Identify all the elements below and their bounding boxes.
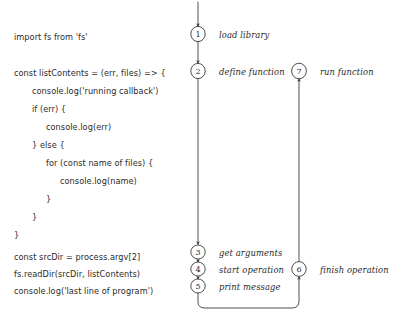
code-line: for (const name of files) { xyxy=(46,158,153,168)
code-line: } else { xyxy=(32,140,65,150)
step-marker-3-number: 3 xyxy=(195,248,200,257)
step-marker-6-number: 6 xyxy=(296,265,301,274)
step-label-print-message: print message xyxy=(219,282,281,292)
flow-connectors xyxy=(198,2,299,308)
step-marker-2[interactable]: 2 xyxy=(191,63,205,78)
code-line: console.log(name) xyxy=(60,176,137,186)
step-marker-1-number: 1 xyxy=(195,30,200,39)
step-marker-6[interactable]: 6 xyxy=(292,262,306,277)
step-marker-5-number: 5 xyxy=(195,282,200,291)
step-label-load-library: load library xyxy=(219,30,269,40)
step-marker-1[interactable]: 1 xyxy=(191,26,205,41)
flow-diagram-page: 1 2 3 4 5 6 7 xyxy=(0,0,396,328)
code-line: import fs from 'fs' xyxy=(14,32,88,42)
step-label-finish-operation: finish operation xyxy=(320,265,389,275)
code-line: } xyxy=(46,194,51,204)
code-line: const srcDir = process.argv[2] xyxy=(14,252,140,262)
step-marker-2-number: 2 xyxy=(195,67,200,76)
step-label-define-function: define function xyxy=(219,67,285,77)
code-line: console.log('running callback') xyxy=(32,86,159,96)
step-marker-7[interactable]: 7 xyxy=(292,63,307,79)
step-label-get-arguments: get arguments xyxy=(219,248,282,258)
code-line: const listContents = (err, files) => { xyxy=(14,68,166,78)
code-line: } xyxy=(14,230,19,240)
code-line: } xyxy=(32,212,37,222)
step-marker-4-number: 4 xyxy=(195,265,200,274)
code-line: fs.readDir(srcDir, listContents) xyxy=(14,269,140,279)
step-marker-4[interactable]: 4 xyxy=(191,262,205,276)
code-line: if (err) { xyxy=(32,104,66,114)
step-marker-7-number: 7 xyxy=(296,67,301,76)
step-label-start-operation: start operation xyxy=(219,265,284,275)
step-marker-5[interactable]: 5 xyxy=(191,279,205,293)
step-label-run-function: run function xyxy=(320,67,374,77)
step-marker-3[interactable]: 3 xyxy=(191,245,205,259)
code-line: console.log(err) xyxy=(46,122,111,132)
code-line: console.log('last line of program') xyxy=(14,286,153,296)
